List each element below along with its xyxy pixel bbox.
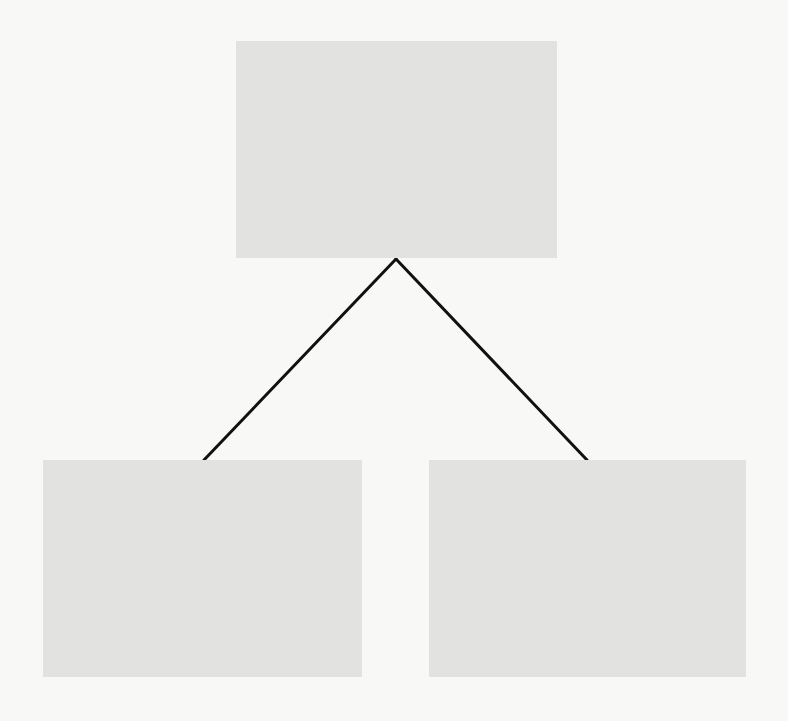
edge-root-right bbox=[396, 259, 587, 460]
node-root bbox=[236, 41, 557, 258]
diagram-canvas bbox=[0, 0, 788, 721]
node-right-child bbox=[429, 460, 746, 677]
edge-root-left bbox=[204, 259, 396, 460]
node-left-child bbox=[43, 460, 362, 677]
